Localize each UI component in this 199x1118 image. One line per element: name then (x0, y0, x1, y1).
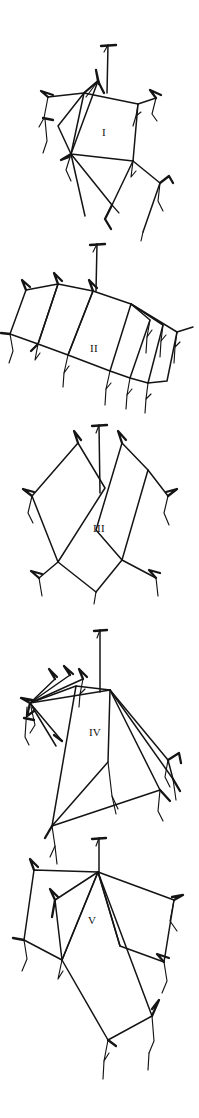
plate-canvas: I (0, 0, 199, 1118)
figure-plate: I (0, 0, 199, 1118)
panel-label-V: V (88, 914, 96, 926)
plate-background (0, 0, 199, 1118)
panel-label-III: III (93, 522, 105, 534)
panel-label-II: II (90, 342, 98, 354)
panel-label-I: I (102, 126, 106, 138)
panel-label-IV: IV (89, 726, 101, 738)
